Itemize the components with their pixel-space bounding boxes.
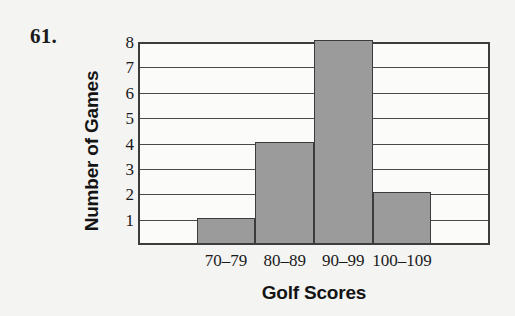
x-tick-label: 100–109 <box>352 251 452 271</box>
histogram-figure: 61. Number of Games 12345678 70–7980–899… <box>0 0 515 316</box>
y-tick-label: 7 <box>108 59 134 76</box>
plot-area <box>138 42 490 245</box>
bar <box>314 40 373 243</box>
x-axis-tick-labels: 70–7980–8990–99100–109 <box>138 251 490 277</box>
y-tick-label: 8 <box>108 34 134 51</box>
y-tick-label: 2 <box>108 186 134 203</box>
x-axis-title: Golf Scores <box>138 282 490 304</box>
y-tick-label: 4 <box>108 136 134 153</box>
y-tick-label: 5 <box>108 110 134 127</box>
y-tick-label: 1 <box>108 212 134 229</box>
bar <box>197 218 256 243</box>
y-tick-label: 3 <box>108 161 134 178</box>
bar <box>255 142 314 244</box>
y-tick-label: 6 <box>108 85 134 102</box>
y-axis-title: Number of Games <box>81 46 103 256</box>
y-axis-tick-labels: 12345678 <box>108 0 134 316</box>
bar <box>373 192 432 243</box>
problem-number-label: 61. <box>30 24 57 49</box>
